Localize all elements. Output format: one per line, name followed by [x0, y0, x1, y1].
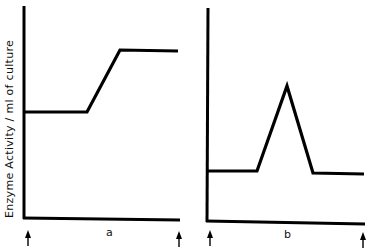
panel-b-end-arrow-icon — [360, 232, 366, 248]
panel-b-label: b — [284, 228, 291, 241]
panel-a-end-arrow-icon — [176, 231, 182, 247]
panel-b-x-axis — [206, 221, 365, 224]
panel-b-start-arrow-icon — [207, 230, 213, 246]
panel-b: b — [206, 8, 366, 248]
panel-a-label: a — [106, 226, 113, 239]
y-axis-label: Enzyme Activity / ml of culture — [3, 40, 16, 218]
panel-a-data-line — [25, 50, 178, 112]
enzyme-activity-figure: Enzyme Activity / ml of culture a — [0, 0, 372, 252]
panel-a-x-axis — [23, 218, 180, 220]
panel-a-start-arrow-icon — [25, 230, 31, 246]
panel-b-data-line — [208, 86, 364, 174]
panel-b-y-axis — [207, 8, 208, 222]
panel-a: a — [23, 6, 182, 247]
